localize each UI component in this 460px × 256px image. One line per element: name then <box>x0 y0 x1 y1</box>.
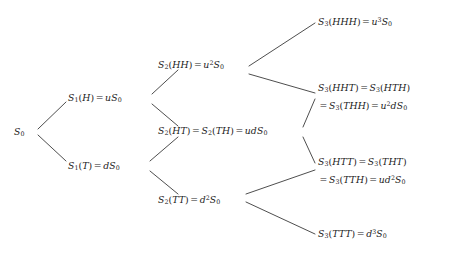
edge-S1T-S2HT <box>150 137 178 161</box>
node-S2-HH-label: S2(HH)=u2S0 <box>158 56 224 74</box>
node-S1-H-label: S1(H)=uS0 <box>68 91 122 107</box>
node-S2-HT: S2(HT)=S2(TH)=udS0 <box>158 124 267 140</box>
node-S2-TT: S2(TT)=d2S0 <box>158 191 220 209</box>
node-S3-TTT: S3(TTT)=d3S0 <box>318 225 387 243</box>
node-S0: S0 <box>14 125 25 141</box>
node-S3-HTT-line2: =S3(TTH)=ud2S0 <box>318 171 407 189</box>
node-S3-HTT-line1: S3(HTT)=S3(THT) <box>318 155 407 171</box>
node-S3-HHT-line2: =S3(THH)=u2dS0 <box>318 97 410 115</box>
node-S2-TT-label: S2(TT)=d2S0 <box>158 191 220 209</box>
node-S0-label: S0 <box>14 125 25 141</box>
edge-S1H-S2HT <box>152 104 178 126</box>
node-S3-TTT-line1: S3(TTT)=d3S0 <box>318 225 387 243</box>
node-S3-HHH: S3(HHH)=u3S0 <box>318 13 392 31</box>
edge-S2TT-S3HTT <box>246 170 315 194</box>
edge-S2HT-S3HTT <box>303 137 315 163</box>
edge-S2TT-S3TTT <box>246 202 315 234</box>
edge-S0-S1H <box>38 102 66 129</box>
node-S2-HT-label: S2(HT)=S2(TH)=udS0 <box>158 124 267 140</box>
node-S1-T: S1(T)=dS0 <box>68 159 120 175</box>
edge-S2HH-S3HHT <box>249 74 315 93</box>
edge-S2HT-S3HHT <box>303 99 315 127</box>
node-S1-H: S1(H)=uS0 <box>68 91 122 107</box>
node-S3-HHT: S3(HHT)=S3(HTH) =S3(THH)=u2dS0 <box>318 81 410 115</box>
node-S3-HHT-line1: S3(HHT)=S3(HTH) <box>318 81 410 97</box>
node-S3-HTT: S3(HTT)=S3(THT) =S3(TTH)=ud2S0 <box>318 155 407 189</box>
binomial-tree-diagram: S0 S1(H)=uS0 S1(T)=dS0 S2(HH)=u2S0 S2(HT… <box>0 0 460 256</box>
edge-S0-S1T <box>38 135 66 161</box>
node-S1-T-label: S1(T)=dS0 <box>68 159 120 175</box>
node-S2-HH: S2(HH)=u2S0 <box>158 56 224 74</box>
edge-S2HH-S3HHH <box>249 23 315 66</box>
node-S3-HHH-line1: S3(HHH)=u3S0 <box>318 13 392 31</box>
